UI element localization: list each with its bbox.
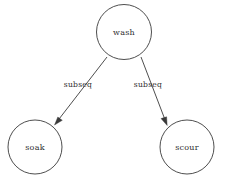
arrowhead-icon-soak — [55, 117, 63, 125]
node-label-wash: wash — [113, 28, 135, 37]
node-wash[interactable]: wash — [97, 5, 152, 60]
figure-caption — [0, 180, 227, 187]
arrowhead-icon-scour — [161, 117, 167, 126]
node-label-soak: soak — [25, 143, 45, 152]
edge-line-wash-scour — [141, 57, 166, 121]
edge-label-wash-scour: subseq — [134, 80, 162, 89]
figure-canvas: subseq subseq wash soak — [0, 0, 227, 187]
node-scour[interactable]: scour — [160, 120, 214, 174]
node-soak[interactable]: soak — [8, 120, 62, 174]
node-group: wash soak scour — [8, 5, 214, 175]
edge-wash-soak[interactable]: subseq — [55, 57, 108, 125]
node-label-scour: scour — [175, 143, 199, 152]
edge-line-wash-soak — [58, 57, 108, 121]
edge-wash-scour[interactable]: subseq — [134, 57, 167, 126]
graph-diagram: subseq subseq wash soak — [0, 0, 227, 187]
edge-label-wash-soak: subseq — [64, 80, 92, 89]
edge-group: subseq subseq — [55, 57, 168, 126]
